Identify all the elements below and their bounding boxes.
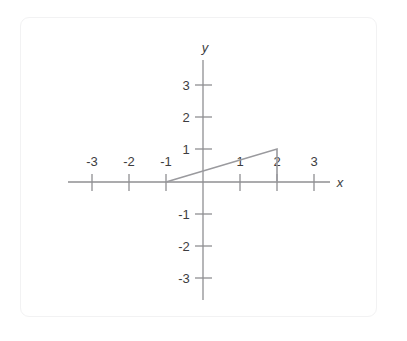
y-tick-label-neg2: -2 — [178, 239, 190, 254]
x-tick-label-neg1: -1 — [160, 154, 172, 169]
x-tick-label-pos3: 3 — [310, 154, 317, 169]
x-tick-label-neg2: -2 — [123, 154, 135, 169]
y-tick-label-pos2: 2 — [182, 110, 189, 125]
x-axis-label: x — [336, 175, 344, 190]
y-axis-label: y — [201, 40, 210, 55]
y-tick-label-neg3: -3 — [178, 271, 190, 286]
y-tick-label-pos3: 3 — [182, 78, 189, 93]
y-tick-label-pos1: 1 — [182, 142, 189, 157]
coordinate-plane-plot: -3 -2 -1 1 2 3 3 2 1 -1 -2 -3 y x — [0, 0, 407, 341]
y-tick-label-neg1: -1 — [178, 207, 190, 222]
x-tick-label-neg3: -3 — [86, 154, 98, 169]
